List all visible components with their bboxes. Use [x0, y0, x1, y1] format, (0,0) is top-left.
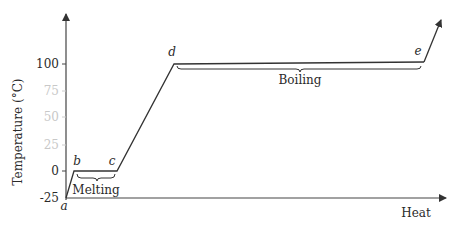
y-tick-50: 50	[44, 110, 59, 124]
y-axis-title: Temperature (°C)	[11, 79, 25, 186]
point-label-a: a	[60, 199, 67, 213]
point-label-e: e	[414, 44, 421, 58]
boiling-label: Boiling	[279, 73, 322, 87]
melting-brace	[77, 174, 115, 181]
heating-curve-final-segment	[424, 20, 441, 62]
point-label-d: d	[168, 45, 176, 59]
boiling-brace	[177, 66, 421, 72]
y-tick-25: 25	[44, 138, 59, 152]
melting-label: Melting	[72, 183, 120, 197]
y-tick-75: 75	[44, 84, 59, 98]
y-tick-0: 0	[51, 164, 59, 178]
heating-curve-line	[66, 62, 424, 198]
x-axis-title: Heat	[401, 206, 431, 220]
y-tick-100: 100	[36, 57, 59, 71]
heating-curve-chart: 100 75 50 25 0 -25 Temperature (°C) Heat…	[0, 0, 468, 226]
y-tick-neg25: -25	[40, 191, 59, 205]
point-label-b: b	[73, 154, 81, 168]
point-label-c: c	[109, 154, 116, 168]
